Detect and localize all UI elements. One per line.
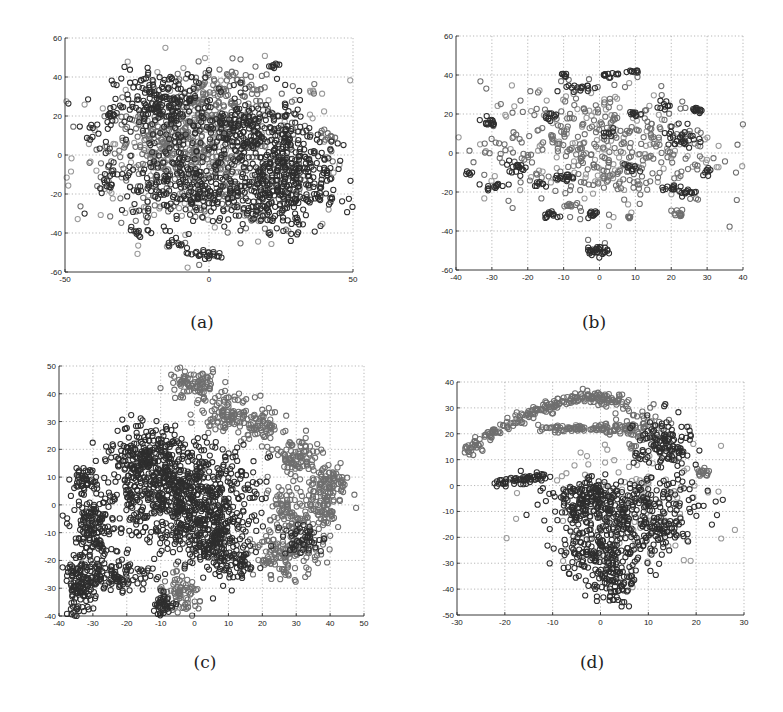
svg-text:60: 60	[444, 32, 453, 41]
svg-text:20: 20	[444, 110, 453, 119]
svg-text:30: 30	[292, 619, 301, 628]
svg-text:0: 0	[58, 151, 63, 160]
svg-text:-30: -30	[442, 559, 454, 568]
svg-text:-40: -40	[442, 585, 454, 594]
svg-text:20: 20	[47, 445, 56, 454]
svg-text:-20: -20	[50, 190, 62, 199]
caption-d: (d)	[580, 652, 604, 672]
scatter-plot-a: -50050-60-40-200204060	[65, 38, 353, 272]
svg-text:40: 40	[445, 378, 454, 387]
caption-b: (b)	[582, 312, 606, 332]
svg-text:-20: -20	[441, 188, 453, 197]
svg-text:20: 20	[258, 619, 267, 628]
svg-text:-60: -60	[50, 268, 62, 277]
svg-text:50: 50	[47, 362, 56, 371]
svg-text:0: 0	[598, 618, 603, 627]
svg-text:40: 40	[739, 273, 748, 282]
svg-text:30: 30	[703, 273, 712, 282]
svg-text:0: 0	[597, 273, 602, 282]
svg-text:50: 50	[360, 619, 369, 628]
caption-c: (c)	[194, 652, 217, 672]
svg-text:-10: -10	[44, 529, 56, 538]
svg-text:0: 0	[450, 482, 455, 491]
svg-text:-20: -20	[442, 533, 454, 542]
svg-text:-40: -40	[44, 612, 56, 621]
svg-text:20: 20	[692, 618, 701, 627]
data-points	[456, 68, 746, 260]
svg-text:-20: -20	[522, 273, 534, 282]
scatter-panel-d: -30-20-100102030-50-40-30-20-10010203040	[457, 382, 744, 615]
svg-text:10: 10	[224, 619, 233, 628]
svg-text:30: 30	[47, 418, 56, 427]
svg-text:60: 60	[53, 34, 62, 43]
svg-text:30: 30	[445, 404, 454, 413]
svg-text:10: 10	[644, 618, 653, 627]
svg-text:30: 30	[740, 618, 749, 627]
scatter-plot-d: -30-20-100102030-50-40-30-20-10010203040	[457, 382, 744, 615]
svg-text:-50: -50	[442, 611, 454, 620]
svg-text:-60: -60	[441, 266, 453, 275]
svg-text:0: 0	[449, 149, 454, 158]
svg-text:40: 40	[53, 73, 62, 82]
svg-text:-20: -20	[121, 619, 133, 628]
svg-text:40: 40	[47, 390, 56, 399]
svg-text:20: 20	[445, 430, 454, 439]
svg-text:-10: -10	[442, 507, 454, 516]
svg-text:-10: -10	[547, 618, 559, 627]
data-points	[64, 45, 355, 270]
svg-text:0: 0	[207, 275, 212, 284]
grid-lines	[456, 36, 743, 270]
svg-text:-20: -20	[499, 618, 511, 627]
svg-text:0: 0	[192, 619, 197, 628]
svg-text:-10: -10	[558, 273, 570, 282]
svg-text:-10: -10	[155, 619, 167, 628]
scatter-panel-b: -40-30-20-10010203040-60-40-200204060	[456, 36, 743, 270]
svg-text:-20: -20	[44, 556, 56, 565]
svg-text:50: 50	[349, 275, 358, 284]
caption-a: (a)	[190, 312, 213, 332]
svg-text:20: 20	[667, 273, 676, 282]
scatter-plot-c: -40-30-20-1001020304050-40-30-20-1001020…	[59, 366, 364, 616]
svg-text:10: 10	[47, 473, 56, 482]
svg-text:-30: -30	[44, 584, 56, 593]
svg-text:-30: -30	[87, 619, 99, 628]
scatter-plot-b: -40-30-20-10010203040-60-40-200204060	[456, 36, 743, 270]
svg-text:-30: -30	[486, 273, 498, 282]
svg-text:0: 0	[52, 501, 57, 510]
svg-text:-40: -40	[441, 227, 453, 236]
svg-text:10: 10	[631, 273, 640, 282]
svg-text:40: 40	[326, 619, 335, 628]
svg-text:-40: -40	[50, 229, 62, 238]
data-points	[60, 365, 359, 619]
svg-text:10: 10	[445, 456, 454, 465]
scatter-panel-c: -40-30-20-1001020304050-40-30-20-1001020…	[59, 366, 364, 616]
svg-text:40: 40	[444, 71, 453, 80]
scatter-panel-a: -50050-60-40-200204060	[65, 38, 353, 272]
svg-text:20: 20	[53, 112, 62, 121]
